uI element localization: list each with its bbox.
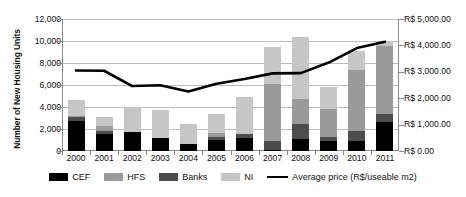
bar-segment-ni[interactable] [96, 117, 113, 126]
bar-segment-ni[interactable] [236, 97, 253, 134]
bar-segment-hfs[interactable] [292, 99, 309, 124]
y-axis-right-tick-label: R$ 0.00 [404, 147, 466, 156]
y-axis-left-tick-mark [57, 107, 62, 108]
bar-segment-ni[interactable] [348, 51, 365, 69]
bar-stack[interactable] [68, 19, 85, 151]
bar-segment-cef[interactable] [348, 141, 365, 151]
x-axis-tick-mark [231, 151, 232, 155]
bar-stack[interactable] [236, 19, 253, 151]
y-axis-left-tick-label: 0 [5, 147, 61, 156]
legend-item[interactable]: Banks [159, 172, 207, 182]
bar-stack[interactable] [292, 19, 309, 151]
bar-segment-hfs[interactable] [96, 126, 113, 131]
bar-segment-hfs[interactable] [320, 109, 337, 138]
y-axis-right-tick-label: R$ 4,000.00 [404, 41, 466, 50]
bar-segment-cef[interactable] [264, 150, 281, 151]
bar-segment-cef[interactable] [208, 140, 225, 151]
bar-segment-cef[interactable] [236, 138, 253, 151]
bar-segment-cef[interactable] [292, 139, 309, 151]
bar-segment-cef[interactable] [124, 132, 141, 151]
bar-segment-cef[interactable] [376, 122, 393, 151]
y-axis-right-tick-mark [399, 125, 404, 126]
y-axis-left-tick-mark [57, 129, 62, 130]
bar-segment-banks[interactable] [376, 114, 393, 122]
legend-item[interactable]: CEF [49, 172, 90, 182]
y-axis-left-tick-label: 2,000 [5, 125, 61, 134]
bar-segment-ni[interactable] [68, 100, 85, 115]
chart-container: Number of New Housing Units 02,0004,0006… [0, 0, 466, 197]
x-axis-tick-mark [287, 151, 288, 155]
legend-color-swatch [159, 173, 178, 181]
y-axis-left-tick-label: 4,000 [5, 103, 61, 112]
x-axis-tick-label: 2011 [365, 154, 405, 163]
bar-segment-banks[interactable] [292, 124, 309, 139]
y-axis-left-tick-mark [57, 63, 62, 64]
bar-segment-ni[interactable] [264, 47, 281, 84]
bar-segment-cef[interactable] [180, 144, 197, 151]
x-axis-tick-mark [259, 151, 260, 155]
x-axis-tick-mark [371, 151, 372, 155]
x-axis-tick-mark [315, 151, 316, 155]
bar-segment-hfs[interactable] [208, 133, 225, 137]
y-axis-left-tick-label: 10,000 [5, 37, 61, 46]
bar-stack[interactable] [124, 19, 141, 151]
bar-segment-banks[interactable] [68, 117, 85, 121]
y-axis-right-tick-mark [399, 72, 404, 73]
y-axis-left-tick-label: 8,000 [5, 59, 61, 68]
y-axis-right-tick-label: R$ 3,000.00 [404, 67, 466, 76]
bar-stack[interactable] [264, 19, 281, 151]
bar-segment-ni[interactable] [376, 42, 393, 46]
bar-segment-hfs[interactable] [348, 70, 365, 131]
legend-item[interactable]: NI [221, 172, 253, 182]
x-axis-tick-mark [343, 151, 344, 155]
y-axis-right-tick-mark [399, 45, 404, 46]
bar-stack[interactable] [96, 19, 113, 151]
bar-stack[interactable] [152, 19, 169, 151]
chart-legend: CEFHFSBanksNIAverage price (R$/useable m… [0, 172, 466, 182]
bar-stack[interactable] [208, 19, 225, 151]
y-axis-right-tick-label: R$ 2,000.00 [404, 94, 466, 103]
x-axis-tick-mark [174, 151, 175, 155]
bar-stack[interactable] [348, 19, 365, 151]
bar-stack[interactable] [180, 19, 197, 151]
bar-segment-ni[interactable] [208, 114, 225, 133]
legend-label: HFS [127, 172, 145, 182]
bar-segment-cef[interactable] [96, 134, 113, 151]
bar-segment-ni[interactable] [320, 87, 337, 109]
legend-color-swatch [104, 173, 123, 181]
bar-segment-hfs[interactable] [264, 84, 281, 141]
y-axis-left-tick-mark [57, 19, 62, 20]
bar-stack[interactable] [376, 19, 393, 151]
legend-label: CEF [72, 172, 90, 182]
y-axis-right-tick-mark [399, 19, 404, 20]
bar-segment-banks[interactable] [208, 137, 225, 140]
bar-segment-hfs[interactable] [376, 46, 393, 114]
legend-label: Average price (R$/useable m2) [292, 172, 416, 182]
y-axis-right-tick-label: R$ 1,000.00 [404, 120, 466, 129]
bar-segment-cef[interactable] [320, 141, 337, 151]
bar-segment-banks[interactable] [236, 134, 253, 138]
legend-label: Banks [182, 172, 207, 182]
y-axis-right-tick-mark [399, 98, 404, 99]
bar-segment-hfs[interactable] [68, 116, 85, 118]
bar-segment-banks[interactable] [348, 131, 365, 141]
legend-label: NI [244, 172, 253, 182]
bar-segment-banks[interactable] [320, 137, 337, 141]
bar-segment-banks[interactable] [96, 131, 113, 134]
y-axis-left-tick-mark [57, 41, 62, 42]
bar-segment-ni[interactable] [180, 124, 197, 144]
bar-segment-ni[interactable] [124, 107, 141, 132]
legend-item[interactable]: HFS [104, 172, 145, 182]
x-axis-tick-mark [146, 151, 147, 155]
bar-segment-cef[interactable] [152, 138, 169, 151]
bar-segment-ni[interactable] [152, 110, 169, 138]
legend-item[interactable]: Average price (R$/useable m2) [267, 172, 416, 182]
y-axis-right-tick-label: R$ 5,000.00 [404, 15, 466, 24]
y-axis-right-tick-mark [399, 151, 404, 152]
bar-segment-banks[interactable] [264, 141, 281, 150]
bar-stack[interactable] [320, 19, 337, 151]
bar-segment-cef[interactable] [68, 121, 85, 151]
bar-segment-ni[interactable] [292, 37, 309, 99]
y-axis-left-tick-mark [57, 85, 62, 86]
x-axis-tick-mark [90, 151, 91, 155]
